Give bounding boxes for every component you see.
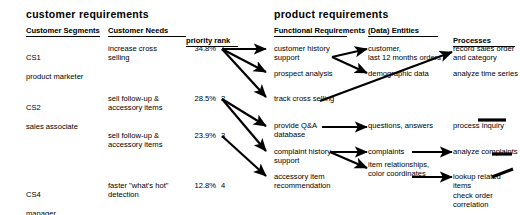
priority-rank-2: 2	[221, 94, 225, 103]
process-analyze-complaints: analyze complaints	[453, 147, 518, 156]
edge-rank1-to-track-cross-selling	[222, 49, 266, 97]
entity-complaints: complaints	[368, 147, 404, 156]
customer-need-4: faster "what's hot" detection	[108, 181, 168, 200]
customer-segment-cs2: CS2 sales associate	[26, 94, 78, 132]
process-lookup-related-items-check-order-correlation: lookup related items check order correla…	[453, 172, 520, 210]
column-header-label: Functional Requirements	[274, 26, 365, 35]
segment-code: CS4	[26, 190, 41, 199]
segment-role: sales associate	[26, 122, 78, 131]
edge-rank2-to-provide-qa-database	[222, 99, 266, 126]
functional-requirement-accessory-item-recommendation: accessory item recommendation	[274, 172, 331, 191]
customer-segment-cs4: CS4 manager	[26, 181, 56, 215]
entity-demographic-data: demographic data	[368, 69, 429, 78]
customer-segment-cs1: CS1 product marketer	[26, 44, 83, 82]
priority-percent-3: 23.9%	[186, 131, 216, 140]
column-header-customer-needs: Customer Needs	[108, 26, 186, 37]
priority-rank-3: 3	[221, 131, 225, 140]
edge-fr5-to-item-relationships	[330, 152, 367, 168]
functional-requirement-complaint-history-support: complaint history support	[274, 147, 331, 166]
column-header-customer-segments: Customer Segments	[26, 26, 100, 37]
entity-questions-answers: questions, answers	[368, 121, 433, 130]
entity-item-relationships-color-coordinates: item relationships, color coordinates	[368, 160, 429, 179]
priority-percent-2: 28.5%	[186, 94, 216, 103]
column-header-data-entities: (Data) Entities	[368, 26, 438, 37]
customer-need-1: increase cross selling	[108, 44, 157, 63]
priority-percent-1: 34.8%	[186, 44, 216, 53]
process-analyze-time-series: analyze time series	[453, 69, 518, 78]
functional-requirement-track-cross-selling: track cross selling	[274, 94, 334, 103]
functional-requirement-prospect-analysis: prospect analysis	[274, 69, 333, 78]
header-rule	[274, 36, 347, 37]
process-record-sales-order-and-category: record sales order and category	[453, 44, 514, 63]
edge-fr1-to-customer-orders	[332, 49, 367, 57]
edge-rank2-to-complaint-history	[222, 99, 266, 151]
segment-code: CS2	[26, 103, 41, 112]
section-title-product-requirements: product requirements	[274, 8, 389, 20]
edge-fr1-to-demographic-data	[332, 57, 367, 73]
priority-rank-1: 1	[221, 44, 225, 53]
segment-role: product marketer	[26, 72, 83, 81]
functional-requirement-customer-history-support: customer history support	[274, 44, 330, 63]
functional-requirement-provide-qa-database: provide Q&A database	[274, 121, 317, 140]
customer-need-2: sell follow-up & accessory items	[108, 94, 162, 113]
segment-code: CS1	[26, 53, 41, 62]
entity-customer-last-12-months-orders: customer, last 12 months orders	[368, 44, 441, 63]
edge-rank3-to-accessory-item	[222, 136, 266, 176]
priority-percent-4: 12.8%	[186, 181, 216, 190]
header-rule	[368, 36, 438, 37]
diagram-canvas: customer requirements product requiremen…	[0, 0, 520, 215]
customer-need-3: sell follow-up & accessory items	[108, 131, 162, 150]
segment-role: manager	[26, 209, 56, 215]
section-title-customer-requirements: customer requirements	[26, 8, 149, 20]
edge-rank1-to-prospect-analysis	[222, 49, 266, 72]
header-rule	[108, 36, 186, 37]
process-process-inquiry: process inquiry	[453, 121, 504, 130]
column-header-label: (Data) Entities	[368, 26, 419, 35]
priority-rank-4: 4	[221, 181, 225, 190]
column-header-label: Customer Needs	[108, 26, 168, 35]
column-header-label: Customer Segments	[26, 26, 100, 35]
column-header-functional-requirements: Functional Requirements	[274, 26, 365, 37]
header-rule	[26, 36, 100, 37]
